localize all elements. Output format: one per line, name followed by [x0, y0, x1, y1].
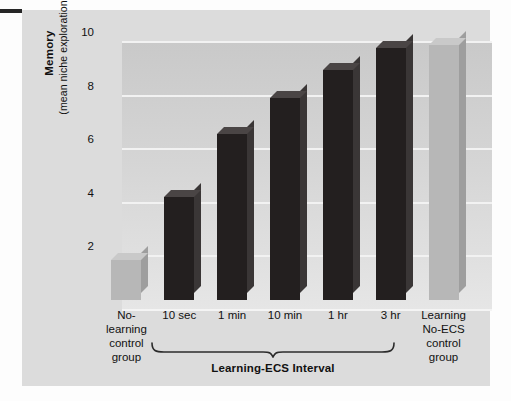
x-tick-label-line: group	[411, 350, 477, 364]
x-tick-label-line: 10 min	[257, 308, 313, 322]
x-tick-label-1-min: 1 min	[204, 308, 260, 322]
x-tick-label-line: No-ECS	[411, 322, 477, 336]
figure-panel: Memory (mean niche explorations) 108642 …	[22, 10, 490, 386]
x-axis-tick-labels: No-learningcontrolgroup10 sec1 min10 min…	[22, 10, 490, 386]
x-tick-label-line: learning	[93, 322, 159, 336]
x-tick-label-10-sec: 10 sec	[151, 308, 207, 322]
group-brace-icon	[150, 342, 396, 358]
x-tick-label-line: 1 min	[204, 308, 260, 322]
x-tick-label-line: control	[411, 336, 477, 350]
x-tick-label-1-hr: 1 hr	[310, 308, 366, 322]
x-tick-label-line: Learning	[411, 308, 477, 322]
x-axis-group-label: Learning-ECS Interval	[150, 362, 396, 374]
x-tick-label-learning-no-ecs-control-group: LearningNo-ECScontrolgroup	[411, 308, 477, 364]
x-tick-label-line: 1 hr	[310, 308, 366, 322]
x-tick-label-10-min: 10 min	[257, 308, 313, 322]
x-tick-label-line: No-	[93, 308, 159, 322]
edge-crop-mark	[0, 9, 22, 13]
x-tick-label-line: 10 sec	[151, 308, 207, 322]
